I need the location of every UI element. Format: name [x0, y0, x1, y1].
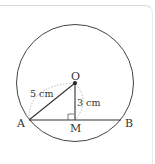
- label-o: O: [71, 70, 80, 83]
- label-a: A: [16, 117, 26, 130]
- circle-diagram: O A B M 5 cm 3 cm: [0, 0, 155, 164]
- label-om-length: 3 cm: [77, 97, 100, 108]
- label-b: B: [125, 117, 133, 130]
- label-m: M: [70, 122, 81, 135]
- right-angle-marker: [68, 114, 74, 120]
- label-ao-length: 5 cm: [30, 88, 53, 99]
